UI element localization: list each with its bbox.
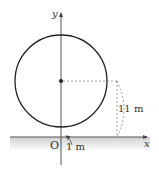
y-axis-arrow-icon (59, 12, 63, 17)
height-label: 11 m (118, 104, 143, 114)
gap-label: 1 m (66, 142, 85, 152)
center-dot (59, 79, 63, 83)
y-axis-label: y (52, 9, 58, 19)
ferris-wheel-diagram: y x O 1 m 11 m (0, 0, 159, 170)
x-axis-label: x (144, 139, 150, 149)
origin-label: O (50, 140, 59, 151)
